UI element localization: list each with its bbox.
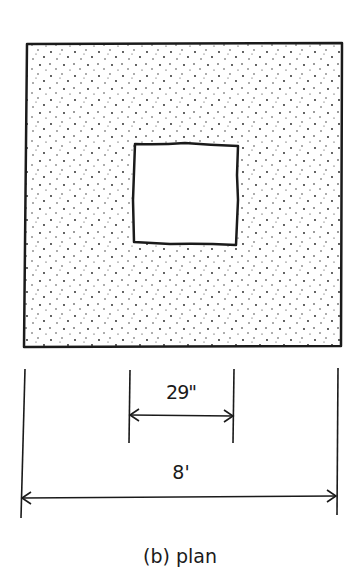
figure-caption: (b) plan <box>143 545 217 567</box>
opening-width-label: 29" <box>166 381 196 403</box>
opening <box>133 143 238 245</box>
plan-drawing <box>0 0 364 585</box>
overall-width-label: 8' <box>172 461 189 483</box>
